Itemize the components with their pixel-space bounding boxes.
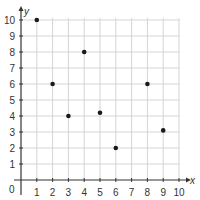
x-tick-label: 5 (97, 187, 103, 198)
x-tick-label: 8 (145, 187, 151, 198)
y-tick-label: 10 (4, 15, 16, 26)
x-tick-label: 9 (160, 187, 166, 198)
data-point (98, 111, 103, 116)
tick-labels: 1234567891012345678910 (4, 15, 185, 199)
x-tick-label: 6 (113, 187, 119, 198)
x-tick-label: 4 (81, 187, 87, 198)
data-point (114, 146, 119, 151)
x-tick-label: 2 (50, 187, 56, 198)
scatter-plot: 1234567891012345678910 x y 0 (0, 0, 200, 200)
data-point (50, 82, 55, 87)
x-tick-label: 1 (34, 187, 40, 198)
y-tick-label: 9 (9, 31, 15, 42)
y-tick-label: 4 (9, 111, 15, 122)
y-tick-label: 5 (9, 95, 15, 106)
grid-lines (21, 18, 179, 180)
y-axis-label: y (23, 6, 30, 17)
x-axis-label: x (189, 175, 196, 186)
x-tick-label: 3 (66, 187, 72, 198)
x-tick-label: 10 (173, 187, 185, 198)
data-point (66, 114, 71, 119)
y-tick-label: 2 (9, 143, 15, 154)
x-tick-label: 7 (129, 187, 135, 198)
y-axis-arrow-icon (19, 6, 24, 11)
y-tick-label: 3 (9, 127, 15, 138)
y-tick-label: 7 (9, 63, 15, 74)
origin-label: 0 (9, 184, 15, 195)
y-tick-label: 1 (9, 159, 15, 170)
data-point (35, 18, 40, 23)
data-point (82, 50, 87, 55)
data-point (161, 128, 166, 133)
data-point (145, 82, 150, 87)
y-tick-label: 8 (9, 47, 15, 58)
y-tick-label: 6 (9, 79, 15, 90)
